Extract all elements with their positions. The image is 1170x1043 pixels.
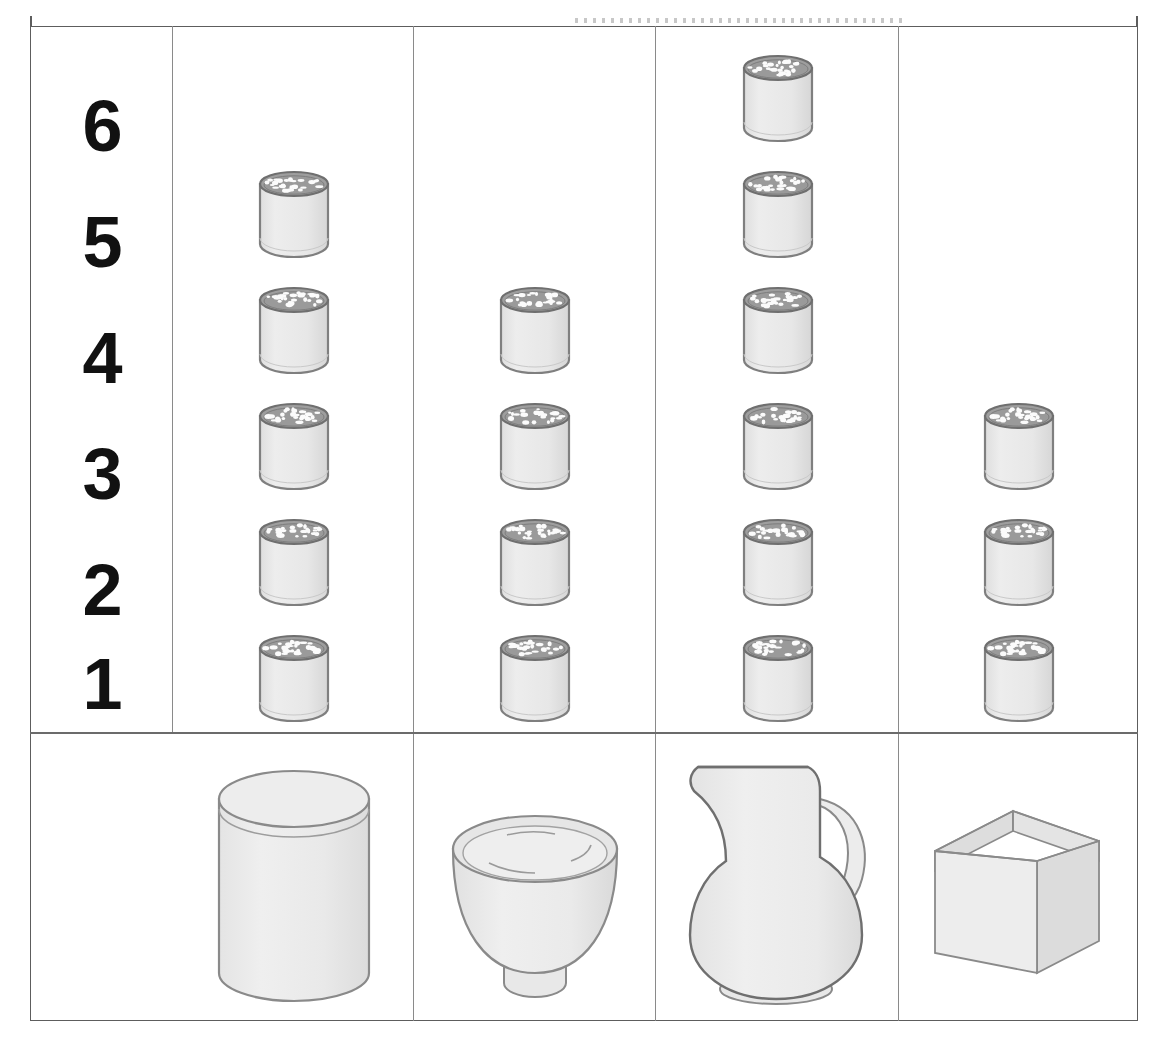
glass-of-liquid-icon bbox=[256, 288, 332, 376]
glass-unit-pitcher-6 bbox=[657, 37, 898, 153]
glass-unit-bowl-4 bbox=[415, 269, 655, 385]
glass-of-liquid-icon bbox=[497, 404, 573, 492]
y-axis-tick-6: 6 bbox=[32, 90, 172, 162]
glass-of-liquid-icon bbox=[740, 288, 816, 376]
glass-of-liquid-icon bbox=[740, 172, 816, 260]
open-box-icon bbox=[921, 805, 1117, 985]
glass-unit-bowl-1 bbox=[415, 617, 655, 733]
glass-unit-pitcher-2 bbox=[657, 501, 898, 617]
cylindrical-jar-icon bbox=[213, 765, 375, 1015]
glass-of-liquid-icon bbox=[497, 520, 573, 608]
y-axis-tick-3: 3 bbox=[32, 438, 172, 510]
glass-unit-box-1 bbox=[900, 617, 1138, 733]
glass-of-liquid-icon bbox=[740, 404, 816, 492]
glass-of-liquid-icon bbox=[256, 520, 332, 608]
glass-of-liquid-icon bbox=[981, 404, 1057, 492]
y-axis-tick-1: 1 bbox=[32, 648, 172, 720]
glass-of-liquid-icon bbox=[256, 404, 332, 492]
y-axis-labels: 6 5 4 3 2 1 bbox=[32, 28, 172, 731]
glass-unit-box-3 bbox=[900, 385, 1138, 501]
container-cell-bowl bbox=[415, 734, 655, 1021]
pitcher-icon bbox=[680, 757, 876, 1015]
glass-unit-jar-5 bbox=[174, 153, 413, 269]
data-column-bowl bbox=[415, 26, 655, 733]
glass-unit-jar-4 bbox=[174, 269, 413, 385]
glass-of-liquid-icon bbox=[740, 56, 816, 144]
glass-unit-jar-1 bbox=[174, 617, 413, 733]
glass-of-liquid-icon bbox=[497, 288, 573, 376]
container-cell-pitcher bbox=[657, 734, 898, 1021]
footed-bowl-icon bbox=[447, 801, 623, 1015]
frame-tick-right bbox=[1136, 16, 1138, 26]
scan-artifact-strip bbox=[575, 18, 905, 23]
glass-unit-bowl-2 bbox=[415, 501, 655, 617]
glass-of-liquid-icon bbox=[981, 636, 1057, 724]
glass-unit-bowl-3 bbox=[415, 385, 655, 501]
glass-unit-jar-2 bbox=[174, 501, 413, 617]
data-column-pitcher bbox=[657, 26, 898, 733]
glass-unit-box-2 bbox=[900, 501, 1138, 617]
glass-of-liquid-icon bbox=[740, 520, 816, 608]
container-cell-box bbox=[900, 734, 1138, 1021]
glass-of-liquid-icon bbox=[497, 636, 573, 724]
glass-unit-pitcher-4 bbox=[657, 269, 898, 385]
data-column-box bbox=[900, 26, 1138, 733]
y-axis-tick-5: 5 bbox=[32, 206, 172, 278]
glass-unit-pitcher-1 bbox=[657, 617, 898, 733]
glass-of-liquid-icon bbox=[256, 172, 332, 260]
container-cell-jar bbox=[174, 734, 413, 1021]
y-axis-tick-2: 2 bbox=[32, 554, 172, 626]
y-axis-tick-4: 4 bbox=[32, 322, 172, 394]
glass-of-liquid-icon bbox=[256, 636, 332, 724]
glass-unit-jar-3 bbox=[174, 385, 413, 501]
data-column-jar bbox=[174, 26, 413, 733]
frame-tick-left bbox=[30, 16, 32, 26]
glass-unit-pitcher-5 bbox=[657, 153, 898, 269]
glass-of-liquid-icon bbox=[981, 520, 1057, 608]
glass-of-liquid-icon bbox=[740, 636, 816, 724]
glass-unit-pitcher-3 bbox=[657, 385, 898, 501]
